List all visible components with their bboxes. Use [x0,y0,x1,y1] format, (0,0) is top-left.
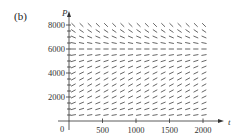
slope-segment [128,102,133,104]
slope-segment [144,36,149,38]
slope-segment [120,78,125,80]
slope-segment [87,102,92,104]
slope-segment [153,66,158,68]
slope-segment [87,66,92,68]
slope-segment [202,36,207,38]
slope-segment [193,36,198,38]
slope-segment [185,55,190,56]
slope-segment [120,30,124,33]
slope-segment [136,66,141,68]
slope-segment [145,96,150,98]
slope-segment [95,66,100,68]
slope-segment [185,84,190,87]
slope-segment [193,66,198,68]
slope-segment [202,30,206,33]
slope-segment [104,90,109,92]
slope-segment [202,96,207,98]
slope-segment [88,30,92,33]
slope-segment [112,96,117,98]
slope-segment [104,102,109,104]
slope-segment [104,84,109,87]
slope-segment [145,84,150,87]
slope-segment [169,115,174,116]
origin-label: 0 [60,124,64,134]
slope-segment [169,96,174,98]
slope-segment [112,36,117,38]
slope-segment [185,108,190,110]
slope-segment [71,30,75,33]
slope-segment [169,66,174,68]
slope-segment [120,84,125,87]
slope-segment [120,23,124,27]
slope-segment [103,115,108,116]
slope-segment [177,66,182,68]
slope-segment [153,90,158,92]
slope-segment [112,66,117,68]
slope-segment [161,96,166,98]
slope-segment [161,36,166,38]
slope-segment [136,36,141,38]
slope-segment [120,60,125,62]
slope-segment [202,108,207,110]
slope-segment [194,96,199,98]
slope-segment [120,90,125,92]
slope-segment [87,90,92,92]
slope-segment [128,60,133,62]
slope-segment [104,30,108,33]
slope-segment [137,23,141,27]
slope-segment [169,108,174,110]
slope-segment [128,66,133,68]
y-tick-label: 6000 [48,44,65,54]
axes: tP05001000150020002000400060008000 [48,8,231,135]
slope-segment [71,66,76,68]
slope-segment [136,84,141,87]
slope-field-plot: tP05001000150020002000400060008000 [0,0,240,139]
slope-segment [71,90,76,92]
slope-segment [87,115,92,116]
panel-label: (b) [14,10,27,22]
slope-segment [185,78,190,80]
slope-segment [95,102,100,104]
slope-segment [177,108,182,110]
slope-segment [201,42,206,43]
slope-segment [169,90,174,92]
y-axis-label: P [61,8,68,18]
slope-segment [152,42,157,43]
slope-segment [161,60,166,62]
slope-segment [112,42,117,43]
slope-segment [128,30,132,33]
slope-segment [185,102,190,104]
slope-segment [71,102,76,104]
slope-segment [202,66,207,68]
slope-segment [128,108,133,110]
slope-segment [87,72,92,74]
slope-segment [71,36,76,38]
slope-segment [161,42,166,43]
slope-segment [169,102,174,104]
slope-segment [104,66,109,68]
slope-segment [202,84,207,87]
slope-segment [201,115,206,116]
slope-segment [169,42,174,43]
slope-segment [169,60,174,62]
slope-segment [120,115,125,116]
slope-segment [128,96,133,98]
y-axis-arrow-icon [67,11,71,17]
slope-segment [120,72,125,74]
slope-segment [79,108,84,110]
slope-segment [112,115,117,116]
slope-segment [202,78,207,80]
slope-segment [136,42,141,43]
slope-segment [96,23,100,27]
slope-segment [145,23,149,27]
slope-segment [144,60,149,62]
slope-segment [87,36,92,38]
slope-segment [112,23,116,27]
slope-segment [95,115,100,116]
slope-segment [144,115,149,116]
slope-segment [153,30,157,33]
slope-segment [153,60,158,62]
slope-segment [79,42,84,43]
slope-segment [144,102,149,104]
slope-segment [128,36,133,38]
